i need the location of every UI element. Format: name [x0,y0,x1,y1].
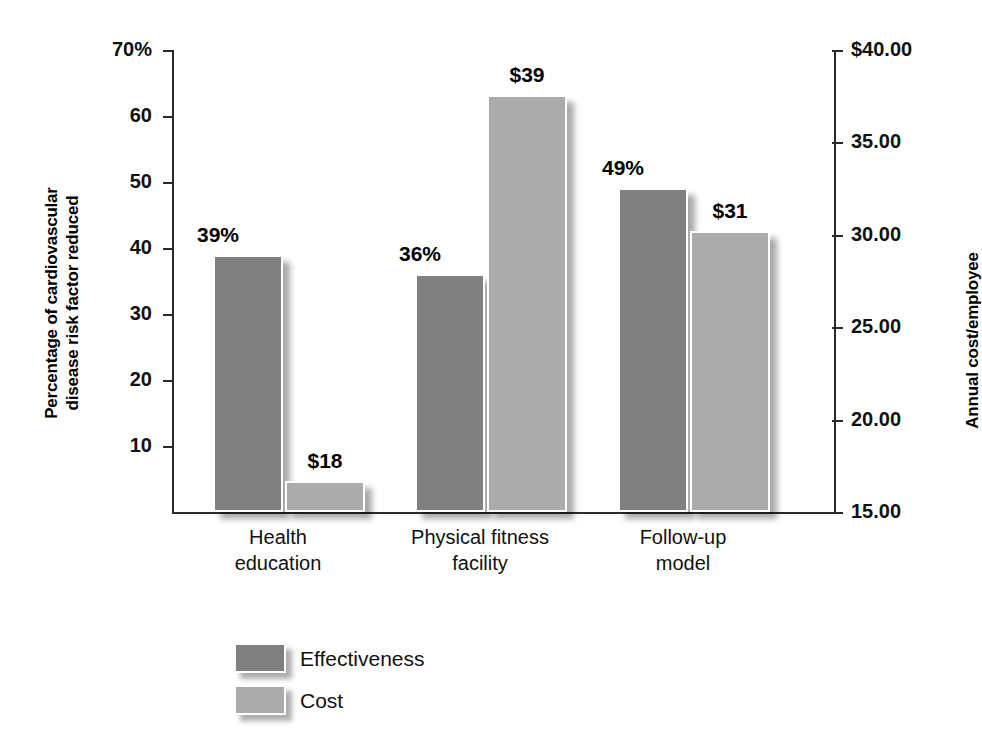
right-tick-label-35: 35.00 [851,131,901,151]
legend-label-cost: Cost [300,690,343,711]
legend-label-effectiveness: Effectiveness [300,648,425,669]
category-label-physical-fitness-facility-line1: Physical fitness [385,524,575,550]
legend: Effectiveness Cost [234,637,425,721]
bar-label-cost-follow-up-model: $31 [690,200,770,221]
legend-item-cost[interactable]: Cost [234,679,425,721]
bar-label-effectiveness-follow-up-model: 49% [588,157,658,178]
legend-item-effectiveness[interactable]: Effectiveness [234,637,425,679]
left-tick-label-70: 70% [42,39,152,59]
bar-label-cost-health-education: $18 [285,450,365,471]
left-tick-label-10: 10 [42,435,152,455]
right-tick-label-30: 30.00 [851,224,901,244]
right-tick-label-15: 15.00 [851,501,901,521]
category-label-follow-up-model-line1: Follow-up [588,524,778,550]
left-tick-label-30: 30 [42,303,152,323]
right-tick-15 [832,512,843,514]
bar-label-effectiveness-health-education: 39% [183,224,253,245]
bar-chart: Percentage of cardiovascular disease ris… [0,0,982,753]
left-tick-label-50: 50 [42,171,152,191]
legend-swatch-cost [234,685,286,715]
bar-cost-physical-fitness-facility[interactable] [487,95,567,512]
category-label-physical-fitness-facility-line2: facility [385,550,575,576]
category-label-health-education-line1: Health [183,524,373,550]
right-tick-label-25: 25.00 [851,316,901,336]
bar-cost-health-education[interactable] [285,481,365,512]
right-axis-title: Annual cost/employee [962,131,982,551]
left-tick-label-60: 60 [42,105,152,125]
x-axis-line [172,512,836,514]
plot-area [172,50,836,512]
category-label-health-education-line2: education [183,550,373,576]
legend-swatch-effectiveness [234,643,286,673]
category-label-physical-fitness-facility: Physical fitness facility [385,524,575,576]
bar-effectiveness-follow-up-model[interactable] [618,188,688,512]
left-tick-label-20: 20 [42,369,152,389]
category-label-follow-up-model-line2: model [588,550,778,576]
bar-label-cost-physical-fitness-facility: $39 [487,64,567,85]
bar-effectiveness-health-education[interactable] [213,255,283,512]
left-tick-label-40: 40 [42,237,152,257]
right-tick-label-40: $40.00 [851,39,912,59]
bar-effectiveness-physical-fitness-facility[interactable] [415,274,485,512]
bar-cost-follow-up-model[interactable] [690,231,770,512]
right-tick-label-20: 20.00 [851,409,901,429]
category-label-follow-up-model: Follow-up model [588,524,778,576]
category-label-health-education: Health education [183,524,373,576]
bar-label-effectiveness-physical-fitness-facility: 36% [385,243,455,264]
